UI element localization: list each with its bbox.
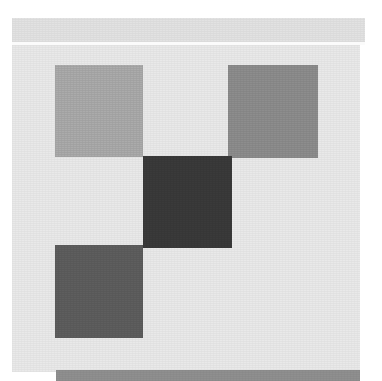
header-separator-rule xyxy=(12,42,365,45)
image-canvas xyxy=(0,0,382,381)
square-top-right xyxy=(228,65,318,158)
header-band xyxy=(12,18,365,42)
square-bottom-left xyxy=(55,245,143,338)
footer-grain-texture xyxy=(56,370,360,381)
square-top-left xyxy=(55,65,143,157)
square-grain-texture xyxy=(143,156,232,248)
square-grain-texture xyxy=(228,65,318,158)
footer-bar xyxy=(56,370,360,381)
square-center-dark xyxy=(143,156,232,248)
square-grain-texture xyxy=(55,65,143,157)
square-grain-texture xyxy=(55,245,143,338)
header-grain-texture xyxy=(12,18,365,42)
